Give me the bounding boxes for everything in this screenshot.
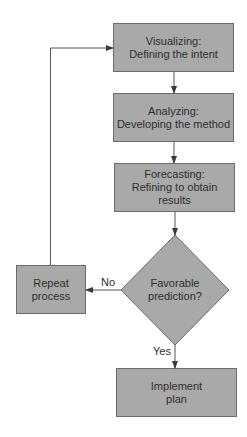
node-forecasting: Forecasting: Refining to obtain results [114, 163, 235, 212]
edge-label-yes: Yes [153, 345, 171, 357]
node-visualizing-label: Visualizing: Defining the intent [129, 35, 218, 61]
node-decision: Favorable prediction? [135, 272, 215, 308]
node-repeat: Repeat process [16, 265, 86, 314]
edge-repeat-to-visualizing [51, 48, 114, 265]
node-forecasting-label: Forecasting: Refining to obtain results [132, 168, 218, 207]
node-analyzing: Analyzing: Developing the method [113, 93, 234, 142]
node-analyzing-label: Analyzing: Developing the method [117, 105, 230, 131]
node-implement-label: Implement plan [151, 380, 202, 406]
node-visualizing: Visualizing: Defining the intent [113, 23, 234, 72]
node-decision-label: Favorable prediction? [148, 277, 202, 303]
edge-label-no: No [101, 276, 115, 288]
node-repeat-label: Repeat process [32, 277, 71, 303]
node-implement: Implement plan [116, 368, 237, 417]
